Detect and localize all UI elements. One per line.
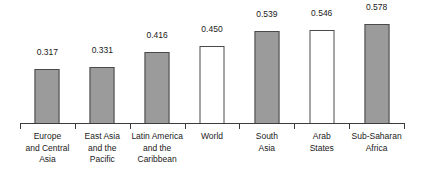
- bar-value-label: 0.539: [256, 9, 277, 19]
- axis-tick: [349, 123, 350, 129]
- axis-tick: [294, 123, 295, 129]
- category-label-line: and the: [130, 143, 185, 155]
- axis-tick: [130, 123, 131, 129]
- category-label-line: Europe: [20, 131, 75, 143]
- bar[interactable]: [199, 46, 224, 124]
- category-label-line: Latin America: [130, 131, 185, 143]
- category-label-line: Caribbean: [130, 154, 185, 166]
- bar[interactable]: [309, 30, 334, 124]
- bar-group: 0.578: [349, 0, 404, 124]
- bar-group: 0.331: [75, 0, 130, 124]
- bar-value-label: 0.331: [92, 45, 113, 55]
- category-label-line: South: [239, 131, 294, 143]
- axis-tick: [20, 123, 21, 129]
- category-label-line: States: [294, 143, 349, 155]
- bar[interactable]: [364, 24, 389, 124]
- axis-tick: [185, 123, 186, 129]
- category-label-line: Africa: [349, 143, 404, 155]
- bar[interactable]: [145, 52, 170, 124]
- bar-chart: 0.3170.3310.4160.4500.5390.5460.578 Euro…: [0, 0, 424, 176]
- bar-value-label: 0.546: [311, 8, 332, 18]
- category-label-line: and the: [75, 143, 130, 155]
- category-label-line: and Central: [20, 143, 75, 155]
- category-label: SouthAsia: [239, 131, 294, 154]
- axis-tick: [239, 123, 240, 129]
- bar-group: 0.450: [185, 0, 240, 124]
- category-label: East Asiaand thePacific: [75, 131, 130, 166]
- bar-value-label: 0.317: [37, 47, 58, 57]
- category-label: ArabStates: [294, 131, 349, 154]
- category-label-line: East Asia: [75, 131, 130, 143]
- bar-group: 0.546: [294, 0, 349, 124]
- category-label-line: Asia: [239, 143, 294, 155]
- category-label: Europeand CentralAsia: [20, 131, 75, 166]
- plot-area: 0.3170.3310.4160.4500.5390.5460.578: [0, 0, 424, 124]
- category-label-line: World: [185, 131, 240, 143]
- bar-group: 0.539: [239, 0, 294, 124]
- category-label-line: Sub-Saharan: [349, 131, 404, 143]
- category-axis-labels: Europeand CentralAsiaEast Asiaand thePac…: [0, 131, 424, 176]
- axis-tick: [404, 123, 405, 129]
- bar-value-label: 0.450: [201, 24, 222, 34]
- bar-group: 0.416: [130, 0, 185, 124]
- category-label-line: Asia: [20, 154, 75, 166]
- bar[interactable]: [90, 67, 115, 124]
- bar-value-label: 0.416: [146, 30, 167, 40]
- axis-tick: [75, 123, 76, 129]
- category-label: Sub-SaharanAfrica: [349, 131, 404, 154]
- bar-group: 0.317: [20, 0, 75, 124]
- bar-value-label: 0.578: [366, 2, 387, 12]
- category-label: World: [185, 131, 240, 143]
- bar[interactable]: [35, 69, 60, 124]
- category-label: Latin Americaand theCaribbean: [130, 131, 185, 166]
- category-label-line: Arab: [294, 131, 349, 143]
- x-axis-line: [20, 123, 404, 124]
- category-label-line: Pacific: [75, 154, 130, 166]
- bar[interactable]: [254, 31, 279, 124]
